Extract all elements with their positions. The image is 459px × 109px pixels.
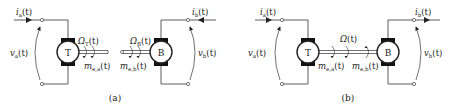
caption-b: (b)	[342, 93, 355, 103]
arrow-ib-icon	[198, 17, 204, 23]
voltage-arrow-va-icon	[35, 27, 40, 80]
label-va: va(t)	[248, 48, 266, 59]
label-vb: vb(t)	[424, 48, 442, 59]
label-meb: me,b(t)	[120, 61, 147, 72]
label-vb: vb(t)	[198, 48, 216, 59]
motor-t-label: T	[65, 48, 71, 58]
terminal-node	[412, 82, 415, 85]
label-meb: me,b(t)	[352, 61, 379, 72]
terminal-node	[280, 18, 283, 21]
motor-b-label: B	[158, 48, 165, 58]
label-ia: ia(t)	[260, 7, 276, 18]
label-omega-t: ΩT(t)	[77, 36, 99, 47]
label-omega-b: ΩB(t)	[129, 36, 151, 47]
label-va: va(t)	[10, 48, 28, 59]
voltage-arrow-va-icon	[275, 27, 280, 80]
caption-a: (a)	[109, 93, 121, 103]
label-ib: ib(t)	[415, 7, 431, 18]
label-ia: ia(t)	[16, 7, 32, 18]
label-mea: me,a(t)	[318, 61, 344, 72]
terminal-node	[280, 82, 283, 85]
panel-a: va(t) ia(t) T ΩT(t) me,a(t) ΩB(t) me,b(t…	[10, 7, 216, 103]
motor-t-label: T	[305, 48, 311, 58]
motor-b-label: B	[385, 48, 392, 58]
arrow-ia-icon	[26, 17, 32, 23]
terminal-node	[412, 18, 415, 21]
label-omega: Ω(t)	[339, 34, 357, 44]
arrow-ia-icon	[266, 17, 272, 23]
voltage-arrow-vb-icon	[416, 27, 421, 80]
terminal-node	[40, 82, 43, 85]
label-mea: me,a(t)	[84, 61, 110, 72]
arrow-ib-icon	[424, 17, 430, 23]
diagram-canvas: va(t) ia(t) T ΩT(t) me,a(t) ΩB(t) me,b(t…	[0, 0, 459, 109]
terminal-node	[40, 18, 43, 21]
terminal-node	[186, 18, 189, 21]
voltage-arrow-vb-icon	[190, 27, 195, 80]
panel-b: va(t) ia(t) T Ω(t) me,a(t) me,b(t) B vb(…	[248, 7, 442, 103]
terminal-node	[186, 82, 189, 85]
label-ib: ib(t)	[192, 7, 208, 18]
